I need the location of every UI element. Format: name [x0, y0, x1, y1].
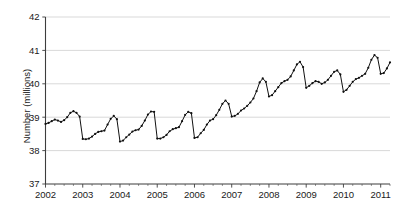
data-point-marker [274, 90, 276, 92]
data-point-marker [283, 80, 285, 82]
data-point-marker [153, 111, 155, 113]
data-point-marker [54, 118, 56, 120]
data-point-marker [88, 137, 90, 139]
data-point-marker [82, 138, 84, 140]
x-tick-label: 2006 [184, 189, 205, 200]
data-point-marker [318, 81, 320, 83]
data-point-marker [119, 140, 121, 142]
data-point-marker [141, 125, 143, 127]
data-point-marker [156, 137, 158, 139]
data-point-marker [138, 128, 140, 130]
data-point-marker [181, 120, 183, 122]
data-point-marker [51, 120, 53, 122]
data-point-marker [367, 67, 369, 69]
data-point-marker [63, 119, 65, 121]
data-point-marker [255, 90, 257, 92]
data-point-marker [221, 103, 223, 105]
data-point-marker [308, 85, 310, 87]
gridlines [46, 17, 391, 151]
axis-lines [46, 17, 391, 184]
data-point-marker [259, 81, 261, 83]
x-tick-label: 2009 [296, 189, 317, 200]
y-tick-label: 39 [29, 112, 40, 123]
y-tick-label: 42 [29, 11, 40, 22]
data-point-marker [373, 54, 375, 56]
data-point-marker [103, 129, 105, 131]
x-tick-label: 2002 [35, 189, 56, 200]
x-tick-label: 2005 [147, 189, 168, 200]
x-tick-label: 2004 [109, 189, 130, 200]
data-point-marker [305, 87, 307, 89]
data-point-marker [44, 123, 46, 125]
data-point-marker [380, 73, 382, 75]
data-point-marker [66, 116, 68, 118]
data-point-marker [286, 79, 288, 81]
data-point-marker [196, 136, 198, 138]
data-point-marker [389, 61, 391, 63]
data-point-marker [178, 126, 180, 128]
data-point-marker [280, 82, 282, 84]
chart-figure: Number (millions) 373839404142 200220032… [0, 0, 398, 212]
data-point-marker [311, 82, 313, 84]
data-point-marker [277, 86, 279, 88]
data-point-marker [215, 114, 217, 116]
data-point-marker [144, 119, 146, 121]
data-point-marker [314, 80, 316, 82]
x-tick-label: 2008 [258, 189, 279, 200]
data-point-marker [383, 72, 385, 74]
data-point-marker [150, 110, 152, 112]
data-point-marker [234, 115, 236, 117]
data-point-marker [271, 94, 273, 96]
data-point-marker [106, 123, 108, 125]
data-point-marker [200, 132, 202, 134]
y-tick-label: 37 [29, 178, 40, 189]
data-point-marker [364, 73, 366, 75]
data-point-marker [159, 137, 161, 139]
data-point-marker [224, 99, 226, 101]
data-point-marker [330, 75, 332, 77]
data-point-marker [100, 130, 102, 132]
y-tick-label: 40 [29, 78, 40, 89]
data-point-marker [290, 75, 292, 77]
data-point-marker [355, 78, 357, 80]
data-point-marker [113, 115, 115, 117]
data-point-marker [172, 128, 174, 130]
data-point-marker [265, 81, 267, 83]
x-tick-label: 2007 [221, 189, 242, 200]
data-point-marker [377, 57, 379, 59]
x-axis-ticks: 2002200320042005200620072008200920102011 [35, 184, 391, 200]
data-point-marker [162, 136, 164, 138]
data-point-marker [361, 75, 363, 77]
data-point-marker [240, 109, 242, 111]
data-point-marker [228, 103, 230, 105]
data-point-marker [302, 66, 304, 68]
data-point-marker [193, 137, 195, 139]
data-point-marker [69, 112, 71, 114]
data-point-marker [299, 61, 301, 63]
data-point-marker [342, 91, 344, 93]
x-tick-label: 2010 [333, 189, 354, 200]
x-tick-label: 2011 [370, 189, 390, 200]
data-point-marker [296, 63, 298, 65]
y-axis-ticks: 373839404142 [29, 11, 46, 189]
data-point-marker [147, 113, 149, 115]
data-point-marker [252, 97, 254, 99]
data-point-marker [249, 101, 251, 103]
data-point-marker [336, 69, 338, 71]
data-point-marker [386, 67, 388, 69]
data-point-marker [352, 81, 354, 83]
data-point-marker [134, 129, 136, 131]
data-point-marker [206, 123, 208, 125]
data-point-marker [184, 114, 186, 116]
data-point-marker [79, 115, 81, 117]
data-point-marker [321, 83, 323, 85]
data-point-marker [203, 129, 205, 131]
data-point-marker [246, 105, 248, 107]
data-point-marker [345, 89, 347, 91]
data-point-marker [293, 69, 295, 71]
data-point-marker [237, 113, 239, 115]
data-point-marker [209, 119, 211, 121]
data-point-marker [268, 95, 270, 97]
data-point-marker [128, 133, 130, 135]
series-line-number-millions [46, 55, 391, 142]
